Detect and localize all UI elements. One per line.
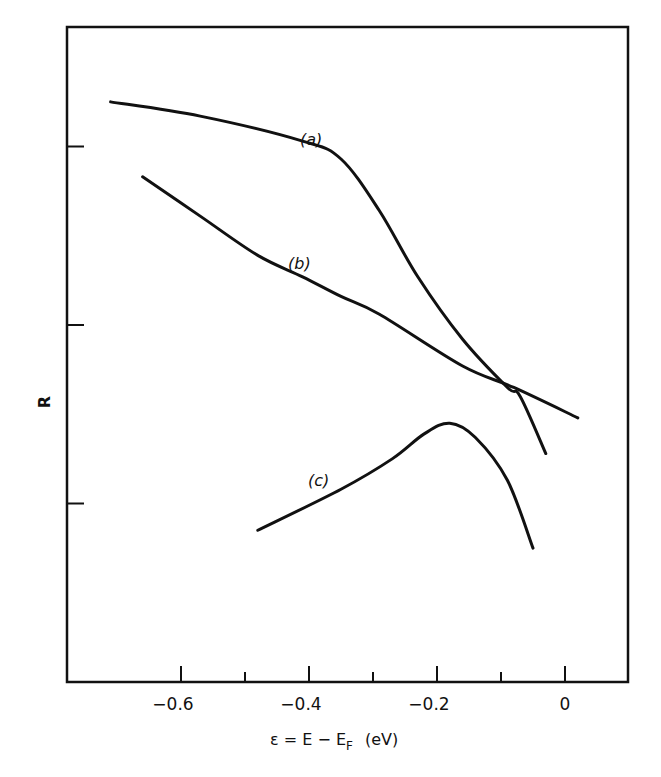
x-axis-title: ε = E − EF(eV) — [270, 730, 398, 753]
x-tick-label: −0.4 — [280, 694, 321, 714]
y-axis-title: R — [35, 396, 54, 408]
x-axis-title-main: ε = E − E — [270, 730, 346, 749]
x-tick-label: 0 — [560, 694, 571, 714]
curves — [111, 102, 578, 548]
x-tick-label: −0.6 — [152, 694, 193, 714]
x-axis-title-unit: (eV) — [365, 730, 398, 749]
curve-label-c: (c) — [308, 471, 329, 490]
curve-c — [258, 423, 533, 548]
x-tick-label: −0.2 — [408, 694, 449, 714]
x-axis-ticks: −0.6−0.4−0.20 — [152, 666, 570, 714]
plot-frame — [67, 27, 628, 682]
chart: −0.6−0.4−0.20 (a)(b)(c) R ε = E − EF(eV) — [0, 0, 661, 777]
y-axis-ticks — [67, 147, 84, 504]
x-axis-title-sub: F — [346, 739, 353, 753]
curve-b — [143, 177, 578, 418]
curve-label-b: (b) — [288, 254, 311, 273]
curve-a — [111, 102, 546, 454]
curve-labels: (a)(b)(c) — [288, 130, 329, 490]
curve-label-a: (a) — [300, 130, 322, 149]
